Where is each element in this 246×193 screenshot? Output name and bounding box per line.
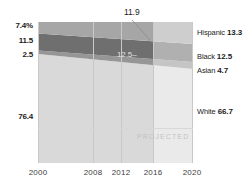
callout-leader-line — [0, 0, 246, 193]
xtick-2020: 2020 — [183, 168, 202, 177]
xtick-2016: 2016 — [144, 168, 163, 177]
inline-label-12-5: 12.5– — [117, 50, 137, 59]
xtick-2000: 2000 — [29, 168, 48, 177]
population-share-area-chart: 7.4% 11.5 2.5 76.4 Hispanic 13.3 Black 1… — [0, 0, 246, 193]
xtick-2008: 2008 — [84, 168, 103, 177]
projected-region-label: PROJECTED — [137, 133, 189, 140]
inline-label-dash: – — [132, 50, 136, 59]
xtick-2012: 2012 — [112, 168, 131, 177]
inline-label-text: 12.5 — [117, 50, 132, 59]
